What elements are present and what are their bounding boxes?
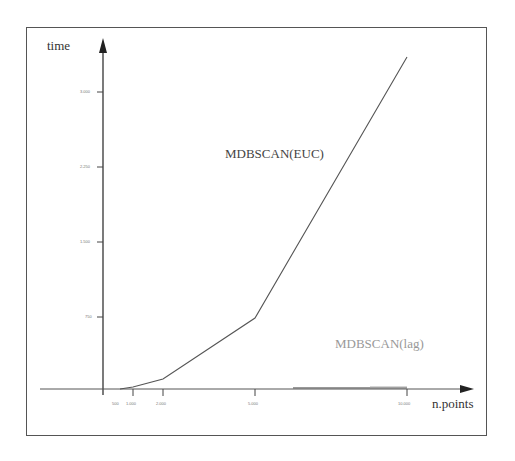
x-axis-arrow-icon xyxy=(460,385,474,393)
y-ticks xyxy=(97,92,103,317)
series-euc-label: MDBSCAN(EUC) xyxy=(225,146,324,162)
y-tick-label: 2.250 xyxy=(80,164,90,169)
x-ticks xyxy=(133,389,407,396)
x-tick-label: 5.000 xyxy=(248,401,258,406)
x-tick-label: 1.000 xyxy=(126,401,136,406)
y-axis-arrow-icon xyxy=(99,38,107,53)
x-tick-label: 500 xyxy=(112,401,119,406)
chart-plot xyxy=(0,0,515,461)
y-axis-title: time xyxy=(47,38,70,54)
y-tick-label: 1.500 xyxy=(80,239,90,244)
x-axis-title: n.points xyxy=(432,396,474,412)
x-tick-label: 2.000 xyxy=(156,401,166,406)
y-tick-label: 750 xyxy=(85,314,92,319)
x-tick-label: 10.000 xyxy=(398,401,410,406)
y-tick-label: 3.000 xyxy=(80,89,90,94)
series-lag-label: MDBSCAN(lag) xyxy=(335,336,424,352)
